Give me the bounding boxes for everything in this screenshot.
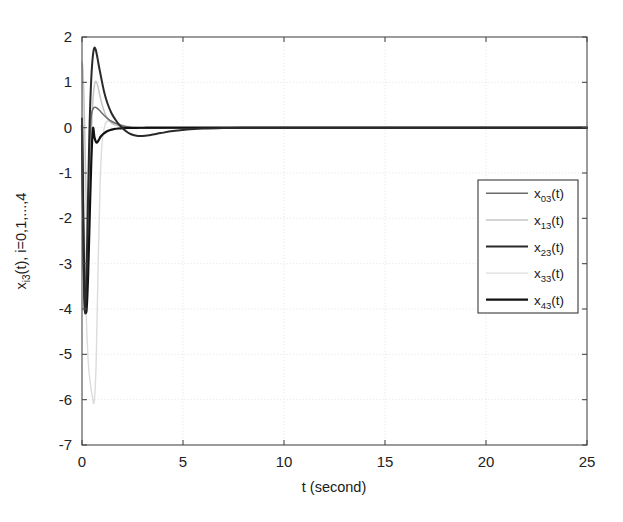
y-tick-label: 0	[64, 119, 72, 136]
y-tick-label: 2	[64, 28, 72, 45]
line-chart: 0510152025 210-1-2-3-4-5-6-7 t (second) …	[0, 0, 623, 522]
x-tick-label: 25	[579, 453, 596, 470]
y-tick-label: -7	[59, 436, 72, 453]
y-tick-label: -2	[59, 209, 72, 226]
x-tick-label: 10	[276, 453, 293, 470]
x-tick-label: 5	[179, 453, 187, 470]
x-tick-label: 15	[377, 453, 394, 470]
x-tick-label: 20	[478, 453, 495, 470]
x-tick-label: 0	[78, 453, 86, 470]
figure-container: 0510152025 210-1-2-3-4-5-6-7 t (second) …	[0, 0, 623, 522]
legend[interactable]: x03(t)x13(t)x23(t)x33(t)x43(t)	[478, 180, 578, 313]
y-tick-label: -6	[59, 391, 72, 408]
y-axis-title-tail: (t), i=0,1,...,4	[13, 193, 29, 275]
y-tick-label: -4	[59, 300, 72, 317]
x-axis-title: t (second)	[302, 479, 366, 495]
x-axis-title-text: t (second)	[302, 479, 366, 495]
y-tick-label: -1	[59, 164, 72, 181]
y-tick-label: -5	[59, 345, 72, 362]
y-tick-label: -3	[59, 255, 72, 272]
y-tick-label: 1	[64, 73, 72, 90]
